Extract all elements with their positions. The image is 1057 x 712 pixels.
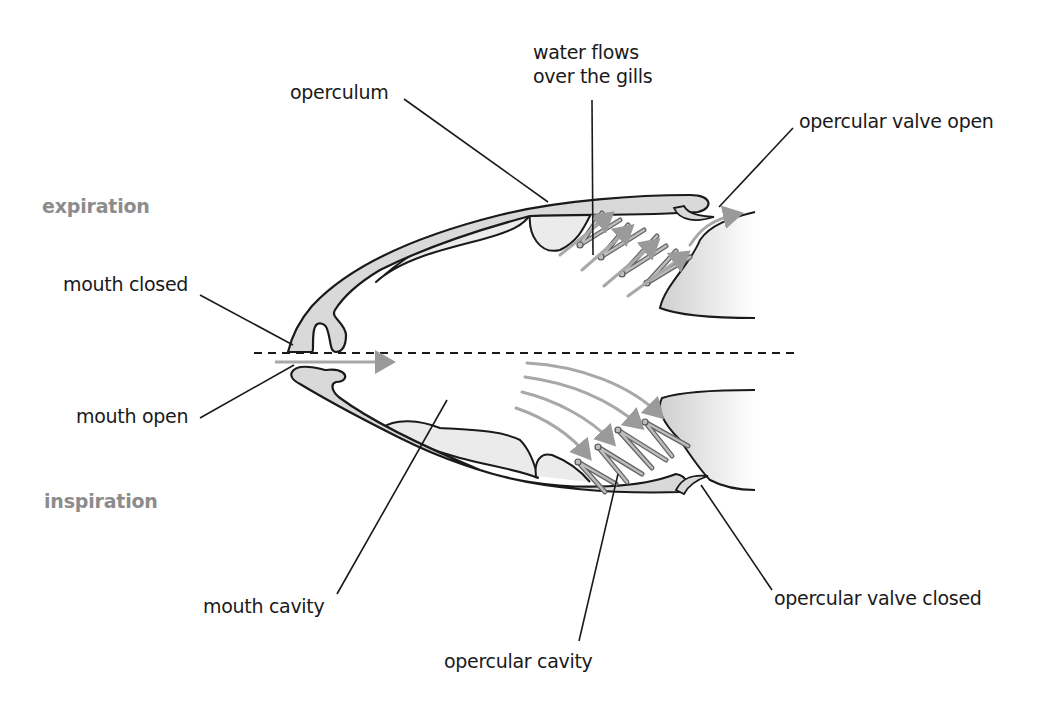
leader-water-flows: [592, 100, 593, 255]
leader-operculum: [404, 99, 548, 202]
operculum-bottom: [291, 367, 687, 493]
leader-mouth-closed: [200, 295, 293, 345]
leader-opercular-cavity: [579, 474, 618, 641]
label-opercular-valve-closed: opercular valve closed: [774, 587, 982, 610]
operculum-top: [288, 195, 708, 352]
label-mouth-open: mouth open: [76, 405, 188, 428]
label-opercular-cavity: opercular cavity: [444, 650, 593, 673]
mouth-lining-bottom: [382, 421, 538, 478]
gill-filaments-top: [580, 213, 690, 283]
label-mouth-closed: mouth closed: [63, 273, 188, 296]
label-opercular-valve-open: opercular valve open: [799, 110, 994, 133]
leader-lines: [200, 99, 793, 641]
inspiration-half: [291, 363, 755, 494]
leader-mouth-open: [200, 365, 294, 418]
leader-valve-closed: [701, 485, 772, 590]
label-operculum: operculum: [290, 81, 388, 104]
phase-label-inspiration: inspiration: [44, 490, 158, 512]
leader-valve-open: [719, 128, 793, 207]
expiration-half: [288, 195, 755, 352]
label-water-flows: water flows over the gills: [533, 40, 652, 88]
phase-label-expiration: expiration: [42, 195, 150, 217]
label-mouth-cavity: mouth cavity: [203, 595, 324, 618]
